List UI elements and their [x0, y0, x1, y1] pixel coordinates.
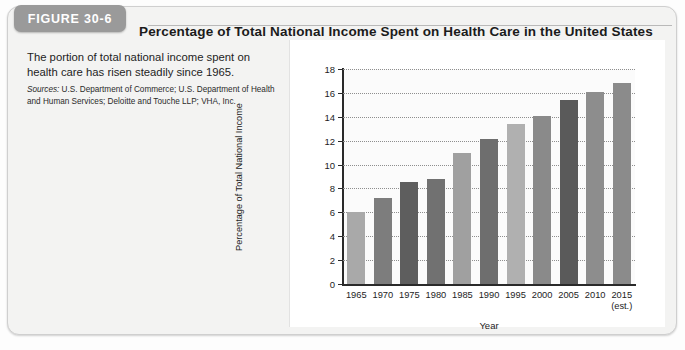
bar [400, 182, 418, 284]
bar [480, 139, 498, 284]
bar [427, 179, 445, 284]
x-axis-tick-label: 2015(est.) [605, 290, 639, 311]
bar [507, 124, 525, 284]
y-axis-tick-label: 0 [330, 279, 335, 290]
y-axis-tick-label: 12 [324, 135, 335, 146]
y-axis-tick [338, 284, 343, 285]
x-axis-tick-sublabel: (est.) [605, 301, 639, 312]
plot-region: Percentage of Total National Income 0246… [343, 69, 635, 284]
y-axis-tick-label: 18 [324, 64, 335, 75]
y-axis-title: Percentage of Total National Income [234, 103, 244, 251]
y-axis-tick-label: 2 [330, 255, 335, 266]
figure-screenshot: FIGURE 30-6 Percentage of Total National… [0, 0, 685, 350]
chart-area: Percentage of Total National Income 0246… [289, 40, 665, 327]
figure-caption: The portion of total national income spe… [27, 50, 279, 80]
bar [347, 212, 365, 284]
figure-number-label: FIGURE 30-6 [28, 12, 113, 26]
bar [586, 92, 604, 284]
bar [374, 198, 392, 284]
chart-title: Percentage of Total National Income Spen… [128, 24, 664, 39]
y-axis-tick-label: 4 [330, 231, 335, 242]
x-axis-tick-year: 2015 [605, 290, 639, 301]
bar [453, 153, 471, 284]
y-axis-tick-label: 16 [324, 87, 335, 98]
y-axis-tick-label: 14 [324, 111, 335, 122]
x-axis-title: Year [343, 320, 635, 331]
y-axis-tick-label: 8 [330, 183, 335, 194]
y-axis-tick-label: 10 [324, 159, 335, 170]
sources-label: Sources: [27, 85, 59, 94]
bar [560, 100, 578, 284]
figure-number-tab: FIGURE 30-6 [14, 5, 126, 32]
x-axis-line [342, 284, 636, 286]
bar-series: 1965197019751980198519901995200020052010… [343, 69, 635, 284]
bar [533, 116, 551, 284]
bar [613, 83, 631, 284]
y-axis-tick-label: 6 [330, 207, 335, 218]
